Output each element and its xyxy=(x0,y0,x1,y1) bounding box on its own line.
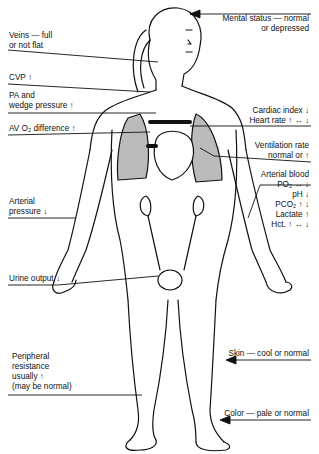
label-peripheral-resistance: Peripheral resistance usually ↑ (may be … xyxy=(12,352,72,392)
label-text: Arterial blood xyxy=(261,170,309,180)
shock-diagram: Veins — full or not flat CVP ↑ PA and we… xyxy=(0,0,319,454)
label-text: Skin — cool or normal xyxy=(228,349,309,359)
label-mental-status: Mental status — normal or depressed xyxy=(223,14,309,34)
label-text: CVP ↑ xyxy=(9,73,32,83)
label-text: PA and xyxy=(9,91,74,101)
label-text: Peripheral xyxy=(12,352,72,362)
label-urine-output: Urine output ↓ xyxy=(9,274,60,284)
label-cardiac-heart-rate: Cardiac index ↓ Heart rate ↑ ↔ ↓ xyxy=(249,106,309,126)
label-text: Arterial xyxy=(9,197,47,207)
label-text: or not flat xyxy=(9,41,52,51)
label-text: PCO₂ ↑ ↓ xyxy=(261,200,309,210)
label-text: (may be normal) xyxy=(12,382,72,392)
label-text: Color — pale or normal xyxy=(224,409,309,419)
label-text: normal or ↑ xyxy=(255,151,309,161)
label-text: or depressed xyxy=(223,24,309,34)
label-pa-wedge-pressure: PA and wedge pressure ↑ xyxy=(9,91,74,111)
label-text: Lactate ↑ xyxy=(261,210,309,220)
label-skin: Skin — cool or normal xyxy=(228,349,309,359)
label-color: Color — pale or normal xyxy=(224,409,309,419)
label-text: Hct. ↑ ↔ ↓ xyxy=(261,220,309,230)
label-text: Ventilation rate xyxy=(255,141,309,151)
label-text: Urine output ↓ xyxy=(9,274,60,284)
label-text: usually ↑ xyxy=(12,372,72,382)
label-text: pH ↓ xyxy=(261,190,309,200)
label-veins: Veins — full or not flat xyxy=(9,31,52,51)
head-outline xyxy=(149,8,201,86)
label-text: Cardiac index ↓ xyxy=(249,106,309,116)
label-av-o2-difference: AV O₂ difference ↑ xyxy=(9,124,76,134)
label-text: wedge pressure ↑ xyxy=(9,101,74,111)
label-text: Veins — full xyxy=(9,31,52,41)
label-text: Mental status — normal xyxy=(223,14,309,24)
label-cvp: CVP ↑ xyxy=(9,73,32,83)
label-text: Heart rate ↑ ↔ ↓ xyxy=(249,116,309,126)
label-arterial-pressure: Arterial pressure ↓ xyxy=(9,197,47,217)
label-arterial-blood: Arterial blood PO₂ ↔ ↓ pH ↓ PCO₂ ↑ ↓ Lac… xyxy=(261,170,309,230)
label-ventilation-rate: Ventilation rate normal or ↑ xyxy=(255,141,309,161)
label-text: PO₂ ↔ ↓ xyxy=(261,180,309,190)
label-text: resistance xyxy=(12,362,72,372)
label-text: AV O₂ difference ↑ xyxy=(9,124,76,134)
label-text: pressure ↓ xyxy=(9,207,47,217)
